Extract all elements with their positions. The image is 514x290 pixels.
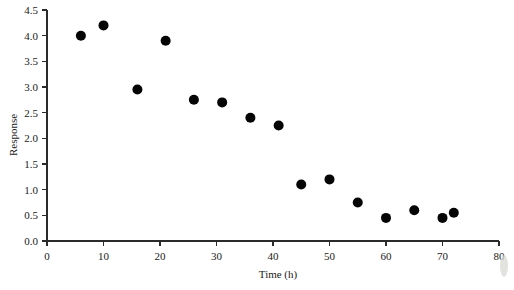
- data-point: [325, 174, 335, 184]
- y-axis-title: Response: [7, 114, 19, 156]
- data-point: [99, 20, 109, 30]
- x-tick-label: 40: [268, 250, 280, 262]
- scatter-chart-figure: 01020304050607080 0.00.51.01.52.02.53.03…: [0, 0, 514, 290]
- chart-canvas: 01020304050607080 0.00.51.01.52.02.53.03…: [0, 0, 514, 290]
- y-tick-label: 1.5: [24, 158, 38, 170]
- x-tick-label: 10: [98, 250, 110, 262]
- x-tick-label: 60: [381, 250, 393, 262]
- y-tick-label: 1.0: [24, 184, 38, 196]
- x-tick-label: 0: [44, 250, 50, 262]
- data-point: [449, 208, 459, 218]
- x-tick-label: 30: [211, 250, 223, 262]
- axes-group: [47, 10, 499, 241]
- x-tick-label: 50: [324, 250, 336, 262]
- x-axis-tick-labels: 01020304050607080: [44, 250, 505, 262]
- data-point: [189, 95, 199, 105]
- data-point: [438, 213, 448, 223]
- scan-artifact-smudge: [500, 255, 508, 277]
- y-tick-label: 2.5: [24, 107, 38, 119]
- y-tick-label: 3.5: [24, 55, 38, 67]
- x-tick-label: 70: [437, 250, 449, 262]
- data-point: [245, 113, 255, 123]
- data-point: [132, 85, 142, 95]
- plot-area: 01020304050607080 0.00.51.01.52.02.53.03…: [0, 0, 514, 290]
- y-axis-tick-labels: 0.00.51.01.52.02.53.03.54.04.5: [24, 4, 38, 247]
- x-axis-ticks: [47, 241, 499, 246]
- data-point: [409, 205, 419, 215]
- data-point: [76, 31, 86, 41]
- y-tick-label: 4.0: [24, 30, 38, 42]
- y-tick-label: 4.5: [24, 4, 38, 16]
- data-point: [161, 36, 171, 46]
- x-axis-title: Time (h): [259, 268, 298, 281]
- y-tick-label: 2.0: [24, 132, 38, 144]
- data-points-group: [76, 20, 459, 223]
- x-tick-label: 20: [155, 250, 167, 262]
- data-point: [381, 213, 391, 223]
- data-point: [274, 121, 284, 131]
- y-tick-label: 0.5: [24, 209, 38, 221]
- data-point: [296, 180, 306, 190]
- y-tick-label: 3.0: [24, 81, 38, 93]
- data-point: [353, 198, 363, 208]
- y-tick-label: 0.0: [24, 235, 38, 247]
- y-axis-ticks: [42, 10, 47, 241]
- axis-lines: [47, 10, 499, 241]
- data-point: [217, 97, 227, 107]
